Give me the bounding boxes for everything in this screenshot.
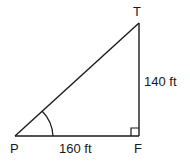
vertex-label-p: P xyxy=(10,141,19,156)
side-label-ft: 140 ft xyxy=(144,74,177,89)
vertex-label-t: T xyxy=(133,4,141,19)
right-angle-mark xyxy=(131,128,139,136)
side-pt-hypotenuse xyxy=(15,23,139,136)
triangle-diagram: P F T 160 ft 140 ft xyxy=(0,0,190,162)
side-label-pf: 160 ft xyxy=(59,141,92,156)
angle-arc-p xyxy=(42,111,53,136)
vertex-label-f: F xyxy=(134,141,142,156)
